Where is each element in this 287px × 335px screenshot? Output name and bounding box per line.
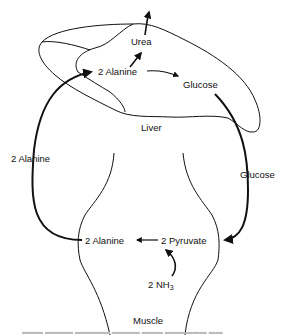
arrow-glucose-to-muscle — [215, 94, 248, 240]
ammonia-text: 2 NH — [148, 279, 170, 290]
liver-label: Liver — [141, 123, 162, 133]
glucose-alanine-cycle-diagram — [0, 0, 287, 335]
cut-off-caption: ▬▬▬ ▬▬▬▬ ▬▬▬▬▬ ▬▬▬▬ ▬▬▬ ▬▬▬▬▬▬ ▬▬ — [22, 328, 282, 335]
arrow-alanine-to-urea — [130, 53, 141, 67]
liver-glucose-label: Glucose — [183, 80, 218, 90]
muscle-alanine-label: 2 Alanine — [85, 236, 124, 246]
flow-arrows — [32, 12, 248, 276]
transport-glucose-label: Glucose — [240, 170, 275, 180]
muscle-pyruvate-label: 2 Pyruvate — [161, 236, 206, 246]
ammonia-subscript: 3 — [170, 284, 174, 291]
arrow-urea-out — [145, 12, 149, 35]
liver-urea-label: Urea — [131, 37, 152, 47]
transport-alanine-label: 2 Alanine — [11, 154, 50, 164]
liver-alanine-label: 2 Alanine — [98, 67, 137, 77]
muscle-label: Muscle — [133, 316, 163, 326]
muscle-ammonia-label: 2 NH3 — [148, 280, 174, 291]
arrow-alanine-to-glucose — [147, 71, 178, 76]
arrow-nh3-to-pyruvate — [166, 250, 175, 276]
